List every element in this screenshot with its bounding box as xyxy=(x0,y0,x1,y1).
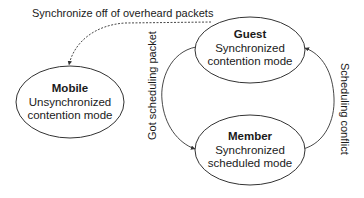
node-guest-line1: Synchronized xyxy=(215,42,285,54)
edge-label-scheduling-conflict: Scheduling conflict xyxy=(339,63,351,155)
dashed-arrow xyxy=(69,22,211,65)
node-member-line1: Synchronized xyxy=(215,144,285,156)
edge-label-got-scheduling-packet: Got scheduling packet xyxy=(146,31,158,140)
node-member: Member Synchronized scheduled mode xyxy=(195,115,305,185)
node-guest: Guest Synchronized contention mode xyxy=(195,17,305,83)
node-mobile-line1: Unsynchronized xyxy=(29,96,111,108)
edge-guest-to-mobile: Synchronize off of overheard packets xyxy=(32,7,214,65)
edge-member-to-guest: Scheduling conflict xyxy=(303,48,351,155)
state-diagram: Synchronize off of overheard packets Got… xyxy=(0,0,364,198)
node-mobile-title: Mobile xyxy=(52,82,88,94)
solid-arrow-right xyxy=(303,48,334,149)
edge-label-synchronize: Synchronize off of overheard packets xyxy=(32,7,214,19)
node-member-line2: scheduled mode xyxy=(208,157,292,169)
node-guest-line2: contention mode xyxy=(207,55,292,67)
solid-arrow-left xyxy=(162,47,196,149)
edge-guest-to-member: Got scheduling packet xyxy=(146,31,196,149)
node-mobile: Mobile Unsynchronized contention mode xyxy=(16,66,124,138)
node-member-title: Member xyxy=(228,130,273,142)
node-mobile-line2: contention mode xyxy=(27,109,112,121)
node-guest-title: Guest xyxy=(234,28,267,40)
